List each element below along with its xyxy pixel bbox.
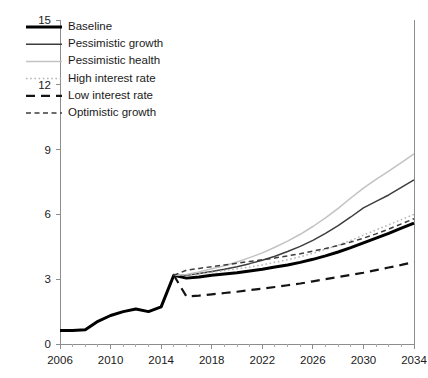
y-tick-label: 3 (45, 273, 51, 285)
x-tick-label: 2030 (351, 354, 377, 366)
y-tick-label: 9 (45, 144, 51, 156)
y-tick-label: 0 (45, 338, 51, 350)
x-tick-label: 2022 (249, 354, 275, 366)
x-tick-label: 2018 (199, 354, 225, 366)
x-tick-label: 2034 (401, 354, 427, 366)
legend-label-pessimistic-growth: Pessimistic growth (68, 37, 163, 49)
series-lines (60, 154, 414, 331)
legend-label-pessimistic-health: Pessimistic health (68, 54, 160, 66)
axes (60, 20, 414, 344)
legend-label-baseline: Baseline (68, 20, 112, 32)
chart-legend: BaselinePessimistic growthPessimistic he… (26, 20, 163, 118)
y-axis-ticks: 03691215 (38, 14, 60, 350)
x-axis-ticks: 20062010201420182022202620302034 (47, 344, 427, 366)
y-tick-label: 6 (45, 208, 51, 220)
x-tick-label: 2006 (47, 354, 73, 366)
legend-label-low-interest-rate: Low interest rate (68, 89, 153, 101)
legend-label-high-interest-rate: High interest rate (68, 72, 156, 84)
y-tick-label: 12 (38, 79, 51, 91)
line-chart: 03691215 2006201020142018202220262030203… (0, 0, 428, 378)
x-tick-label: 2014 (148, 354, 174, 366)
chart-container: 03691215 2006201020142018202220262030203… (0, 0, 428, 378)
x-tick-label: 2026 (300, 354, 326, 366)
series-line-pessimistic-growth (174, 180, 414, 275)
legend-label-optimistic-growth: Optimistic growth (68, 106, 156, 118)
series-line-pessimistic-health (174, 154, 414, 275)
x-tick-label: 2010 (98, 354, 124, 366)
y-tick-label: 15 (38, 14, 51, 26)
series-line-optimistic-growth (174, 219, 414, 276)
